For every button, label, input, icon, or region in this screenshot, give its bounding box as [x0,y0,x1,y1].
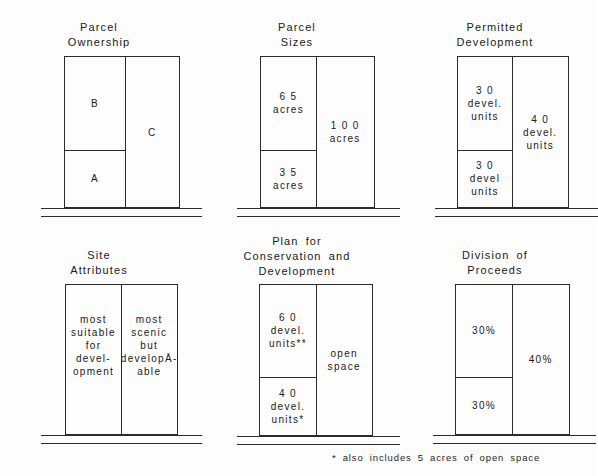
cell-owner-a: A [65,150,125,207]
cell-line: most [136,313,163,326]
diagram-parcel-ownership: B A C [19,56,179,218]
cell-line: space [328,360,361,373]
cell-line: 4 0 [531,113,549,126]
footnote-open-space: * also includes 5 acres of open space [332,452,540,463]
panel-title-division-of-proceeds: Division of Proceeds [396,248,594,278]
cell-most-suitable-for-development: most suitable for devel- opment [66,285,121,434]
cell-40-devel-units: 4 0 devel. units [513,57,568,207]
cell-line: units* [272,413,305,426]
cell-line: devel [470,172,500,185]
cell-line: opment [73,365,114,378]
right-column-division: 40% [512,284,570,435]
cell-line: suitable [71,326,116,339]
ground-line-upper [237,208,400,209]
panel-parcel-sizes: Parcel Sizes 6 5 acres 3 5 acres 1 0 0 [198,20,396,218]
diagram-plan-conservation-development: 6 0 devel. units** 4 0 devel. units* ope… [217,284,377,446]
cell-line: devel. [271,400,306,413]
panel-permitted-development: Permitted Development 3 0 devel. units 3… [396,20,594,218]
cell-line: 40% [529,353,553,366]
cell-line: 6 5 [280,90,298,103]
right-column-parcel-ownership: C [125,56,180,208]
cell-owner-c: C [126,57,179,207]
panel-title-parcel-ownership: Parcel Ownership [0,20,198,50]
ground-line-lower [41,443,202,444]
cell-line: C [148,126,157,139]
ground-line-upper [237,436,400,437]
cell-line: 3 0 [476,159,494,172]
cell-60-devel-units: 6 0 devel. units** [260,285,316,377]
right-column-parcel-sizes: 1 0 0 acres [316,56,375,208]
cell-line: acres [273,179,304,192]
cell-40-percent: 40% [513,285,569,434]
cell-65-acres: 6 5 acres [261,57,316,150]
cell-line: 1 0 0 [331,119,360,132]
cell-line: units** [269,337,307,350]
cell-line: open [330,347,357,360]
cell-30-percent-upper: 30% [456,285,512,377]
cell-line: acres [273,103,304,116]
ground-line-lower [433,443,596,444]
panel-title-parcel-sizes: Parcel Sizes [198,20,396,50]
cell-line: A [91,172,99,185]
cell-line: 3 5 [280,166,298,179]
left-column-parcel-sizes: 6 5 acres 3 5 acres [260,56,317,208]
cell-line: developĀ­- [122,352,177,365]
left-column-permitted-development: 3 0 devel. units 3 0 devel units [457,56,513,208]
panel-site-attributes: Site Attributes most suitable for devel-… [0,248,198,446]
cell-line: 6 0 [279,311,297,324]
cell-40-devel-units: 4 0 devel. units* [260,377,316,435]
ground-line-upper [41,208,202,209]
cell-line: devel. [271,324,306,337]
cell-35-acres: 3 5 acres [261,150,316,207]
panel-division-of-proceeds: Division of Proceeds 30% 30% 40% [396,248,594,446]
left-column-site-attributes: most suitable for devel- opment [65,284,122,435]
right-column-permitted-development: 4 0 devel. units [512,56,569,208]
cell-100-acres: 1 0 0 acres [317,57,374,207]
cell-line: 30% [472,324,496,337]
cell-line: most [80,313,107,326]
panel-title-site-attributes: Site Attributes [0,248,198,278]
cell-line: units [526,139,554,152]
ground-line-lower [237,216,400,217]
cell-line: 4 0 [279,387,297,400]
panel-title-plan-conservation-development: Plan for Conservation and Development [198,234,396,279]
cell-line: able [137,365,161,378]
left-column-parcel-ownership: B A [64,56,126,208]
cell-line: devel. [523,126,558,139]
diagram-permitted-development: 3 0 devel. units 3 0 devel units 4 0 dev… [415,56,575,218]
ground-line-lower [237,444,400,445]
ground-line-upper [435,208,598,209]
right-column-plan: open space [316,284,373,436]
ground-line-lower [41,216,202,217]
cell-line: scenic [131,326,167,339]
ground-line-lower [435,216,598,217]
cell-30-devel-units-upper: 3 0 devel. units [458,57,512,150]
diagram-site-attributes: most suitable for devel- opment most sce… [19,284,179,446]
cell-line: for [86,339,102,352]
panel-plan-conservation-development: Plan for Conservation and Development 6 … [198,234,396,446]
diagram-division-of-proceeds: 30% 30% 40% [415,284,575,446]
cell-line: B [91,97,99,110]
panel-title-permitted-development: Permitted Development [396,20,594,50]
cell-30-devel-units-lower: 3 0 devel units [458,150,512,207]
cell-owner-b: B [65,57,125,150]
left-column-plan: 6 0 devel. units** 4 0 devel. units* [259,284,317,436]
cell-open-space: open space [317,285,372,435]
cell-line: devel. [468,97,503,110]
ground-line-upper [41,435,202,436]
cell-line: 3 0 [476,84,494,97]
panel-parcel-ownership: Parcel Ownership B A C [0,20,198,218]
cell-line: units [471,110,499,123]
cell-line: acres [330,132,361,145]
cell-line: devel- [76,352,111,365]
ground-line-upper [433,435,596,436]
diagram-parcel-sizes: 6 5 acres 3 5 acres 1 0 0 acres [217,56,377,218]
left-column-division: 30% 30% [455,284,513,435]
cell-most-scenic-but-developable: most scenic but developĀ­- able [122,285,177,434]
right-column-site-attributes: most scenic but developĀ­- able [121,284,178,435]
cell-30-percent-lower: 30% [456,377,512,434]
cell-line: 30% [472,399,496,412]
cell-line: but [140,339,158,352]
cell-line: units [471,185,499,198]
